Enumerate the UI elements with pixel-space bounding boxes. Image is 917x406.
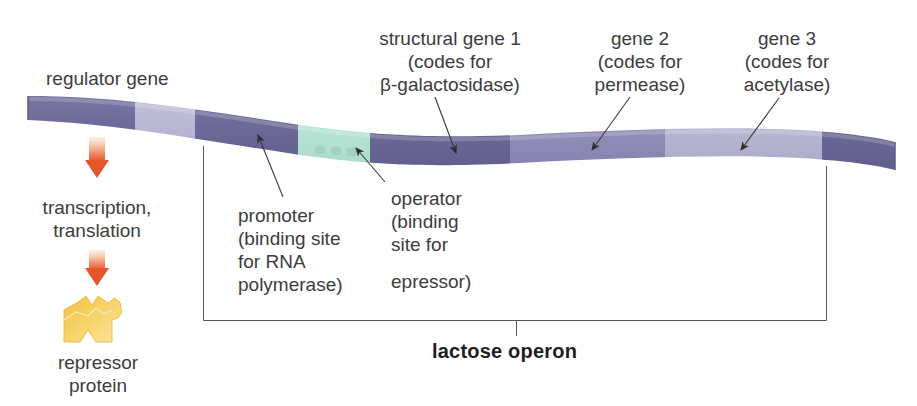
regulator-gene-label: regulator gene <box>46 67 169 90</box>
promoter-label: promoter (binding site for RNA polymeras… <box>238 204 343 296</box>
dna-segment-regulator-gene <box>20 80 135 190</box>
gene2-label: gene 2 (codes for permease) <box>585 27 695 96</box>
dna-segment-gene-3 <box>665 80 822 190</box>
operator-label: operator (binding site for epressor) <box>391 187 471 293</box>
repressor-protein-label: repressor protein <box>45 351 151 397</box>
dna-segment-spacer <box>135 80 195 190</box>
translation-arrow-icon <box>85 250 109 286</box>
transcription-arrow-icon <box>85 137 109 178</box>
lactose-operon-title: lactose operon <box>432 340 577 363</box>
dna-segment-promoter <box>195 80 298 190</box>
gene1-label: structural gene 1 (codes for β-galactosi… <box>362 27 538 96</box>
gene3-label: gene 3 (codes for acetylase) <box>733 27 841 96</box>
dna-segment-gene-1 <box>370 80 510 190</box>
lac-operon-diagram: regulator gene transcription, translatio… <box>0 0 917 406</box>
repressor-protein-icon <box>64 296 122 342</box>
dna-strand <box>20 80 902 190</box>
transcription-translation-label: transcription, translation <box>31 196 163 242</box>
